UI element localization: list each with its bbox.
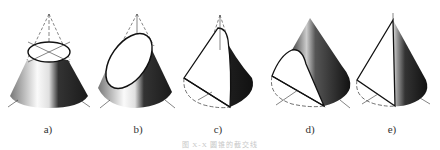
panel-b-label: b): [133, 123, 142, 135]
panel-e-label: e): [388, 123, 397, 135]
panel-d-label: d): [305, 123, 314, 135]
panel-e-cone-triangle-section: [357, 13, 430, 106]
panel-b-cone-ellipse-section: [96, 14, 175, 108]
panel-a-cone-circle-section: [8, 14, 90, 108]
panel-d-cone-hyperbola-section: [271, 18, 350, 108]
panel-c-cone-parabola-section: [184, 15, 253, 108]
panel-c-label: c): [214, 123, 223, 135]
figure-caption: 图 X-X 圆锥的截交线: [182, 139, 259, 149]
panel-a-label: a): [44, 123, 53, 135]
